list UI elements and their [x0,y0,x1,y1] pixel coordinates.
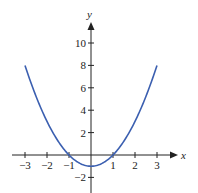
x-tick-label: −2 [41,159,53,171]
x-tick-label: 1 [110,159,116,171]
x-axis-arrow-icon [170,152,178,159]
y-axis-label: y [86,8,92,20]
parabola-plot: x y −3−2−1123 108642−2 [0,0,198,193]
x-tick-label: −1 [63,159,75,171]
x-axis-label: x [180,149,186,161]
y-tick-label: 10 [75,37,87,49]
y-tick-label: 8 [81,59,87,71]
x-tick-label: −3 [19,159,31,171]
y-axis-arrow-icon [88,22,95,30]
y-tick-label: 4 [81,104,87,116]
y-tick-label: 2 [81,127,87,139]
x-tick-label: 3 [154,159,160,171]
y-tick-label: −2 [74,171,86,183]
x-tick-label: 2 [132,159,138,171]
y-tick-label: 6 [81,82,87,94]
